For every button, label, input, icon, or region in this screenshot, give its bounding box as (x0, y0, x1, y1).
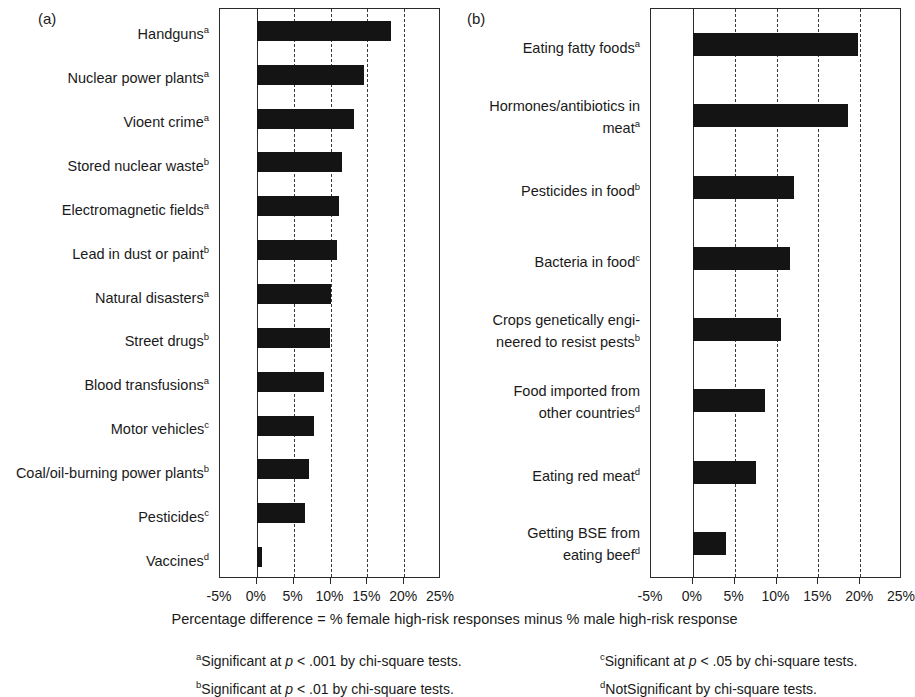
footnote-c: cSignificant at p < .05 by chi-square te… (600, 645, 857, 673)
category-label: Stored nuclear wasteb (0, 153, 209, 175)
category-label: Hormones/antibiotics inmeata (455, 98, 640, 137)
panel-b-category-labels: Eating fatty foodsaHormones/antibiotics … (455, 8, 646, 578)
panel-b-plot-area (650, 8, 901, 578)
category-label: Electromagnetic fieldsa (0, 197, 209, 219)
bar (693, 461, 757, 484)
gridline-20 (404, 9, 405, 577)
category-label: Food imported fromother countriesd (455, 383, 640, 422)
significance-marker: b (204, 156, 209, 167)
significance-marker: a (204, 200, 209, 211)
significance-marker: a (204, 68, 209, 79)
axis-tick-label: -5% (207, 588, 232, 604)
gridline-20 (860, 9, 861, 577)
significance-marker: b (204, 331, 209, 342)
significance-marker: a (635, 118, 640, 129)
bar (693, 104, 848, 127)
bar (257, 372, 324, 392)
significance-marker: d (635, 545, 640, 556)
panel-a-plot-area (219, 8, 440, 578)
axis-tick (692, 578, 693, 584)
axis-tick-label: 10% (315, 588, 343, 604)
footnote-a: aSignificant at p < .001 by chi-square t… (196, 645, 462, 673)
bar (693, 389, 765, 412)
bar (257, 547, 262, 567)
zero-line (693, 9, 694, 577)
panel-a-category-labels: HandgunsaNuclear power plantsaVioent cri… (0, 8, 215, 578)
bar (257, 196, 339, 216)
significance-marker: c (204, 507, 209, 518)
axis-tick-label: 0% (682, 588, 702, 604)
axis-tick-label: 25% (887, 588, 915, 604)
category-label: Motor vehiclesc (0, 416, 209, 438)
gridline-15 (818, 9, 819, 577)
category-label: Crops genetically engi-neered to resist … (455, 312, 640, 351)
axis-tick (403, 578, 404, 584)
significance-marker: a (204, 375, 209, 386)
axis-tick (293, 578, 294, 584)
bar (693, 247, 790, 270)
category-label: Pesticidesc (0, 504, 209, 526)
bar (693, 532, 726, 555)
axis-tick-label: -5% (638, 588, 663, 604)
footnote-d: dNotSignificant by chi-square tests. (600, 673, 857, 697)
axis-tick-label: 20% (389, 588, 417, 604)
significance-marker: d (635, 466, 640, 477)
bar (257, 152, 342, 172)
significance-marker: d (635, 403, 640, 414)
axis-tick-label: 5% (724, 588, 744, 604)
category-label: Eating red meatd (455, 463, 640, 485)
significance-marker: a (204, 288, 209, 299)
category-label: Vaccinesd (0, 548, 209, 570)
bar (257, 503, 305, 523)
axis-tick-label: 5% (283, 588, 303, 604)
bar (257, 65, 364, 85)
bar (257, 416, 314, 436)
category-label: Handgunsa (0, 21, 209, 43)
axis-tick-label: 20% (845, 588, 873, 604)
significance-marker: c (635, 252, 640, 263)
category-label: Nuclear power plantsa (0, 65, 209, 87)
significance-marker: a (204, 112, 209, 123)
footnotes-right: cSignificant at p < .05 by chi-square te… (600, 645, 857, 697)
bar (257, 240, 337, 260)
gridline-10 (777, 9, 778, 577)
category-label: Lead in dust or paintb (0, 241, 209, 263)
gridline-15 (367, 9, 368, 577)
axis-tick-label: 0% (246, 588, 266, 604)
bar (257, 109, 354, 129)
bar (257, 284, 331, 304)
category-label: Getting BSE fromeating beefd (455, 525, 640, 564)
category-label: Pesticides in foodb (455, 178, 640, 200)
gridline-5 (735, 9, 736, 577)
category-label: Vioent crimea (0, 109, 209, 131)
significance-marker: d (204, 551, 209, 562)
bar (693, 33, 858, 56)
bar (693, 176, 794, 199)
significance-marker: c (204, 419, 209, 430)
category-label: Blood transfusionsa (0, 372, 209, 394)
axis-tick-label: 15% (803, 588, 831, 604)
category-label: Street drugsb (0, 328, 209, 350)
significance-marker: b (204, 244, 209, 255)
axis-tick (859, 578, 860, 584)
axis-tick (330, 578, 331, 584)
category-label: Bacteria in foodc (455, 249, 640, 271)
axis-tick (817, 578, 818, 584)
axis-tick-label: 25% (426, 588, 454, 604)
significance-marker: a (635, 38, 640, 49)
footnotes-left: aSignificant at p < .001 by chi-square t… (196, 645, 462, 697)
axis-tick-label: 15% (352, 588, 380, 604)
axis-tick (776, 578, 777, 584)
category-label: Natural disastersa (0, 285, 209, 307)
bar (257, 21, 391, 41)
axis-tick (366, 578, 367, 584)
bar (257, 328, 330, 348)
category-label: Coal/oil-burning power plantsb (0, 460, 209, 482)
footnote-b: bSignificant at p < .01 by chi-square te… (196, 673, 462, 697)
axis-tick (256, 578, 257, 584)
axis-tick-label: 10% (761, 588, 789, 604)
significance-marker: a (204, 24, 209, 35)
axis-tick (734, 578, 735, 584)
bar (693, 318, 781, 341)
significance-marker: b (204, 463, 209, 474)
